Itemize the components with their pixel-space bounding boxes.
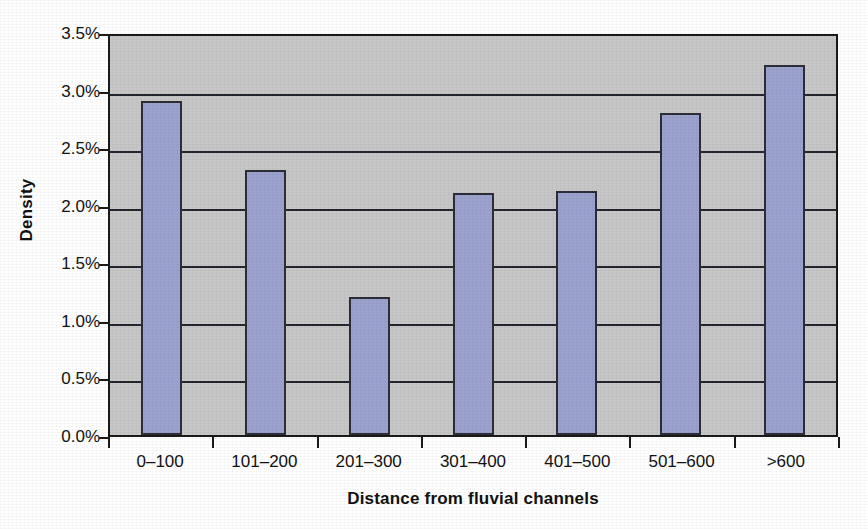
bar[interactable]	[349, 297, 390, 435]
x-axis-tick-mark	[838, 437, 840, 448]
bar-slot	[110, 36, 214, 435]
bar[interactable]	[453, 193, 494, 435]
x-axis-tick-mark	[317, 437, 319, 448]
y-axis-tick-label: 2.5%	[36, 139, 100, 159]
bar-chart: Density 0.0%0.5%1.0%1.5%2.0%2.5%3.0%3.5%…	[0, 0, 868, 529]
x-axis-title: Distance from fluvial channels	[108, 489, 838, 509]
x-axis-tick-label: >600	[734, 452, 838, 472]
bar[interactable]	[556, 191, 597, 435]
y-axis-tick-mark	[99, 437, 109, 439]
y-axis-tick-mark	[99, 379, 109, 381]
bar-slot	[317, 36, 421, 435]
y-axis-tick-label: 1.0%	[36, 312, 100, 332]
x-axis-tick-label: 0–100	[108, 452, 212, 472]
y-axis-tick-label: 1.5%	[36, 254, 100, 274]
y-axis-tick-label: 3.5%	[36, 24, 100, 44]
bar-slot	[421, 36, 525, 435]
y-axis-tick-mark	[99, 92, 109, 94]
x-axis-tick-mark	[734, 437, 736, 448]
plot-area	[108, 34, 838, 437]
x-axis-tick-mark	[525, 437, 527, 448]
x-axis-tick-marks	[108, 437, 838, 449]
y-axis-tick-mark	[99, 322, 109, 324]
x-axis-tick-label: 301–400	[421, 452, 525, 472]
y-axis-tick-mark	[99, 207, 109, 209]
bar-slot	[214, 36, 318, 435]
x-axis-tick-label: 101–200	[212, 452, 316, 472]
y-axis-tick-labels: 0.0%0.5%1.0%1.5%2.0%2.5%3.0%3.5%	[34, 0, 100, 529]
x-axis-tick-labels: 0–100101–200201–300301–400401–500501–600…	[108, 452, 838, 472]
x-axis-tick-label: 401–500	[525, 452, 629, 472]
y-axis-tick-label: 0.0%	[36, 427, 100, 447]
x-axis-tick-mark	[629, 437, 631, 448]
bar[interactable]	[245, 170, 286, 435]
y-axis-tick-label: 3.0%	[36, 82, 100, 102]
x-axis-tick-label: 201–300	[317, 452, 421, 472]
x-axis-tick-label: 501–600	[629, 452, 733, 472]
y-axis-tick-mark	[99, 264, 109, 266]
y-axis-tick-mark	[99, 149, 109, 151]
bars-group	[110, 36, 836, 435]
y-axis-tick-label: 0.5%	[36, 369, 100, 389]
y-axis-tick-mark	[99, 34, 109, 36]
bar-slot	[732, 36, 836, 435]
x-axis-tick-mark	[421, 437, 423, 448]
bar-slot	[629, 36, 733, 435]
y-axis-tick-label: 2.0%	[36, 197, 100, 217]
bar-slot	[525, 36, 629, 435]
bar[interactable]	[660, 113, 701, 435]
x-axis-tick-mark	[212, 437, 214, 448]
bar[interactable]	[141, 101, 182, 435]
bar[interactable]	[764, 65, 805, 435]
